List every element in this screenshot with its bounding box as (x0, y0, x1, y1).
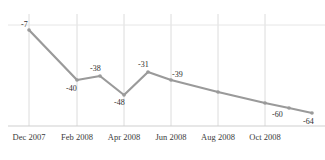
x-tick-label-1: Feb 2008 (61, 132, 93, 142)
x-tick-label-2: Apr 2008 (108, 132, 140, 142)
line-chart: -7-40-38-48-31-39-60-64 Dec 2007Feb 2008… (0, 0, 325, 160)
data-point-marker (122, 93, 126, 97)
data-point-marker (27, 28, 31, 32)
x-tick-label-3: Jun 2008 (156, 132, 187, 142)
data-point-marker (169, 78, 173, 82)
x-axis-tick-labels: Dec 2007Feb 2008Apr 2008Jun 2008Aug 2008… (0, 132, 325, 146)
data-point-marker (216, 90, 220, 94)
data-point-marker (263, 101, 267, 105)
x-tick-label-4: Aug 2008 (201, 132, 235, 142)
data-point-marker (287, 106, 291, 110)
data-point-marker (98, 74, 102, 78)
gridlines (29, 14, 265, 126)
x-tick-label-0: Dec 2007 (13, 132, 46, 142)
data-point-marker (310, 111, 314, 115)
data-point-marker (75, 78, 79, 82)
x-tick-label-5: Oct 2008 (249, 132, 280, 142)
data-point-marker (146, 70, 150, 74)
